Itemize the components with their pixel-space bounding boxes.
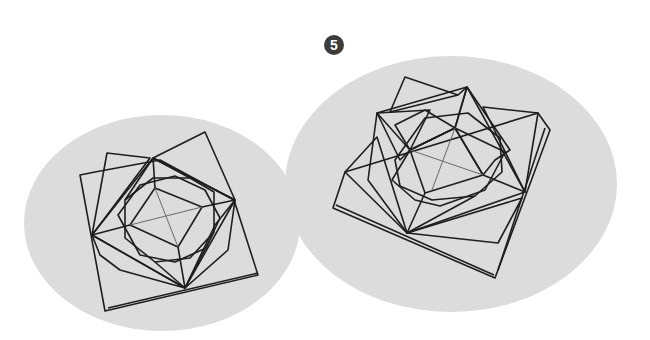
origami-diagram: 5 — [0, 0, 650, 340]
step-number-badge: 5 — [324, 35, 344, 55]
step-number: 5 — [330, 37, 338, 53]
right-background-ellipse — [285, 56, 617, 312]
right-view: 5 — [285, 35, 617, 312]
left-view — [24, 115, 300, 331]
left-background-ellipse — [24, 115, 300, 331]
